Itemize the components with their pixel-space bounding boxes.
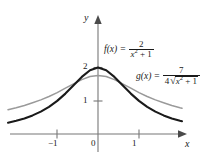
- f-fraction: 2 x2 + 1: [129, 40, 154, 60]
- f-function-name: f(x): [104, 45, 117, 55]
- y-tick-label-1: 1: [83, 96, 88, 105]
- function-graph-figure: y x −1 0 1 1 2 f(x) = 2 x2 + 1 g(x) = 7 …: [0, 0, 218, 161]
- f-equation-annotation: f(x) = 2 x2 + 1: [104, 40, 154, 60]
- f-denominator: x2 + 1: [129, 50, 154, 59]
- f-equals-sign: =: [120, 45, 125, 55]
- g-equation-annotation: g(x) = 7 4√x2 + 1: [136, 66, 200, 87]
- x-axis-label: x: [185, 139, 189, 149]
- g-function-name: g(x): [136, 72, 151, 82]
- x-tick-label-minus-1: −1: [48, 139, 58, 148]
- x-tick-label-0: 0: [91, 139, 96, 148]
- g-equals-sign: =: [154, 72, 159, 82]
- g-radical: √x2 + 1: [169, 76, 198, 87]
- g-fraction: 7 4√x2 + 1: [163, 66, 200, 87]
- g-denominator-tail: + 1: [185, 76, 197, 86]
- y-tick-label-2: 2: [83, 62, 88, 71]
- x-tick-label-1: 1: [132, 139, 137, 148]
- y-axis-arrowhead: [94, 15, 101, 24]
- g-radicand: x2 + 1: [175, 76, 198, 86]
- g-denominator-exponent: 2: [180, 74, 183, 81]
- y-axis-label: y: [84, 13, 88, 23]
- f-denominator-exponent: 2: [135, 47, 138, 54]
- g-denominator: 4√x2 + 1: [163, 76, 200, 87]
- x-axis-arrowhead: [178, 130, 187, 137]
- f-denominator-tail: + 1: [140, 49, 152, 59]
